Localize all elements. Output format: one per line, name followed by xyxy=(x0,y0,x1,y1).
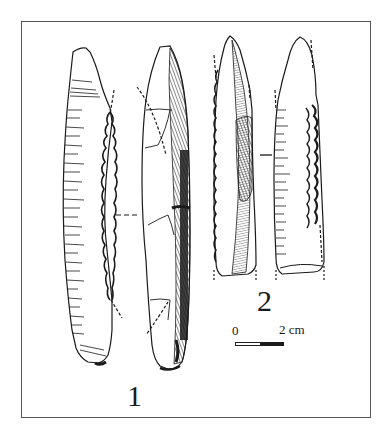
scale-start-label: 0 xyxy=(232,324,239,337)
scale-segment-black xyxy=(261,342,285,346)
figure-number-1: 1 xyxy=(127,381,142,411)
artifact-2-view-b xyxy=(274,37,324,280)
scale-bar xyxy=(235,342,284,346)
scale-segment-white xyxy=(235,342,261,346)
artifact-drawings xyxy=(0,0,389,437)
scale-end-label: 2 cm xyxy=(279,323,305,336)
artifact-2-view-a xyxy=(214,36,256,280)
figure-number-2: 2 xyxy=(257,286,272,316)
artifact-1-view-a xyxy=(63,48,122,364)
artifact-1-view-b xyxy=(137,46,190,370)
